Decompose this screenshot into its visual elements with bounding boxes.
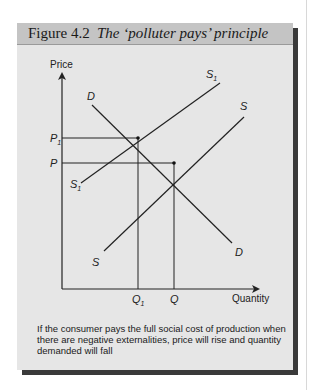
figure-box: Figure 4.2 The ‘polluter pays’ principle… (17, 23, 293, 370)
demand-curve (92, 105, 232, 243)
figure-caption: If the consumer pays the full social cos… (37, 323, 287, 356)
supply-s1-label-top: S1 (206, 68, 217, 82)
page-edge-rule (306, 0, 307, 390)
y-axis-label: Price (50, 59, 73, 70)
chart-plot: Price Quantity D D S S S1 S1 P1 P Q1 Q (17, 23, 293, 370)
price-p1-label: P1 (50, 132, 61, 146)
supply-s-label-bottom: S (92, 256, 100, 268)
price-p-label: P (50, 157, 58, 169)
supply-s-label-top: S (240, 100, 248, 112)
x-axis-label: Quantity (232, 293, 269, 304)
supply-s1-label-bottom: S1 (70, 178, 81, 192)
equilibrium-e (172, 161, 176, 165)
demand-label-top: D (87, 90, 95, 102)
quantity-q-label: Q (170, 293, 179, 305)
quantity-q1-label: Q1 (132, 293, 145, 307)
demand-label-bottom: D (235, 246, 243, 258)
supply-curve-s1 (81, 83, 220, 183)
equilibrium-e1 (136, 136, 140, 140)
